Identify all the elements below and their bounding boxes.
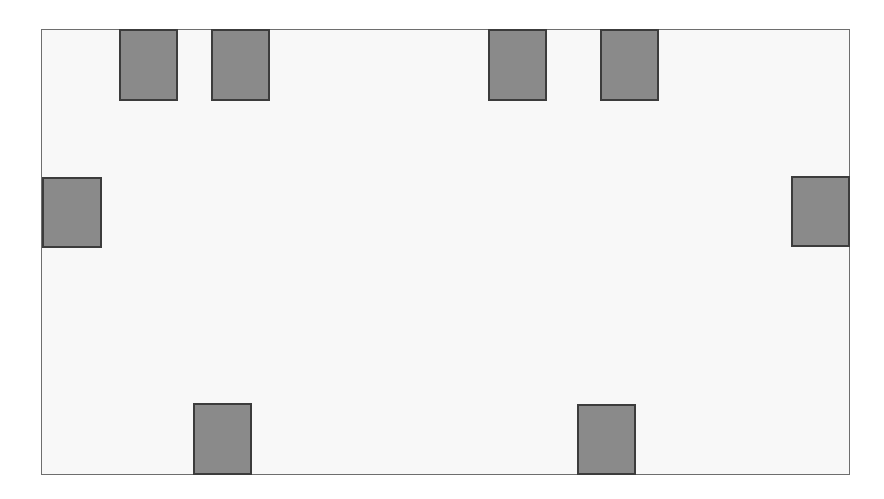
diagram-canvas: [0, 0, 884, 499]
block-top-3: [488, 29, 547, 101]
block-bottom-1: [193, 403, 252, 475]
block-bottom-2: [577, 404, 636, 475]
block-top-1: [119, 29, 178, 101]
block-left-1: [42, 177, 102, 248]
block-top-2: [211, 29, 270, 101]
block-top-4: [600, 29, 659, 101]
block-right-1: [791, 176, 850, 247]
